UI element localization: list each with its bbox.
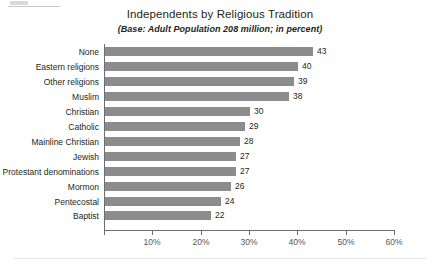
category-label: Mainline Christian (1, 137, 99, 147)
artifact-text-fragment (10, 1, 28, 5)
bar (105, 197, 221, 206)
bar-row: 27 (104, 152, 395, 161)
bar-value-label: 24 (225, 196, 234, 206)
bar-row: 30 (104, 107, 395, 116)
x-tick-label: 60% (374, 237, 414, 247)
tickmark-origin (104, 231, 105, 235)
bar-value-label: 29 (249, 121, 258, 131)
tickmark-20pct (201, 231, 202, 235)
bar-row: 22 (104, 211, 395, 220)
x-tick-label: 40% (277, 237, 317, 247)
category-label: None (1, 47, 99, 57)
bar (105, 152, 236, 161)
bar-row: 28 (104, 137, 395, 146)
category-label: Protestant denominations (1, 167, 99, 177)
category-label: Mormon (1, 182, 99, 192)
bar-value-label: 28 (244, 136, 253, 146)
bar-value-label: 22 (215, 210, 224, 220)
bar (105, 211, 211, 220)
bar-value-label: 38 (293, 91, 302, 101)
bar-row: 24 (104, 197, 395, 206)
bar-value-label: 43 (317, 46, 326, 56)
x-tick-label: 10% (132, 237, 172, 247)
x-tick-label: 30% (229, 237, 269, 247)
tickmark-30pct (249, 231, 250, 235)
bar-value-label: 30 (254, 106, 263, 116)
bar (105, 182, 231, 191)
category-label: Christian (1, 107, 99, 117)
x-tick-label: 20% (181, 237, 221, 247)
tickmark-60pct (394, 231, 395, 235)
bar-value-label: 39 (298, 76, 307, 86)
artifact-rule (8, 6, 60, 7)
category-label: Catholic (1, 122, 99, 132)
plot-area: 10%20%30%40%50%60% 434039383029282727262… (104, 44, 395, 230)
bar (105, 77, 294, 86)
bar (105, 122, 245, 131)
bar-row: 29 (104, 122, 395, 131)
chart-subtitle: (Base: Adult Population 208 million; in … (0, 24, 440, 34)
bar (105, 137, 240, 146)
chart-title: Independents by Religious Tradition (0, 8, 440, 20)
bar-value-label: 26 (235, 181, 244, 191)
bar-value-label: 27 (240, 151, 249, 161)
bar-row: 43 (104, 47, 395, 56)
bar-row: 40 (104, 62, 395, 71)
bar (105, 107, 250, 116)
tickmark-50pct (346, 231, 347, 235)
bar-value-label: 27 (240, 166, 249, 176)
cropped-page-header-artifact (8, 1, 60, 8)
tickmark-10pct (152, 231, 153, 235)
footer-rule (14, 258, 426, 259)
bar-row: 26 (104, 182, 395, 191)
category-label: Jewish (1, 152, 99, 162)
bar-row: 39 (104, 77, 395, 86)
bar (105, 167, 236, 176)
category-label: Baptist (1, 211, 99, 221)
bar-row: 38 (104, 92, 395, 101)
bar (105, 47, 313, 56)
category-label: Other religions (1, 77, 99, 87)
category-label: Pentecostal (1, 197, 99, 207)
category-label: Eastern religions (1, 62, 99, 72)
tickmark-40pct (297, 231, 298, 235)
bar (105, 62, 298, 71)
category-label: Muslim (1, 92, 99, 102)
chart-figure: Independents by Religious Tradition (Bas… (0, 0, 440, 271)
bar-row: 27 (104, 167, 395, 176)
bar (105, 92, 289, 101)
bar-value-label: 40 (302, 61, 311, 71)
x-tick-label: 50% (326, 237, 366, 247)
